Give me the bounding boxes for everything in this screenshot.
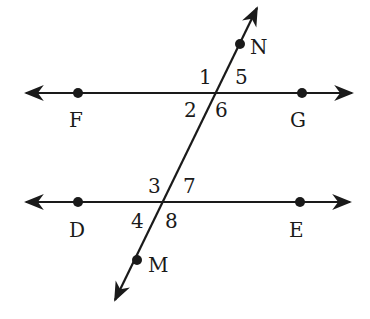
angle-label-7: 7 (183, 174, 196, 198)
point-d-dot (73, 197, 83, 207)
label-d: D (69, 218, 85, 242)
point-m-dot (132, 255, 142, 265)
diagram-canvas: F G D E N M 1 5 2 6 3 7 4 8 (0, 0, 370, 319)
angle-label-2: 2 (184, 98, 197, 122)
point-e-dot (295, 197, 305, 207)
label-m: M (148, 253, 168, 277)
label-n: N (250, 35, 268, 59)
geometry-figure: F G D E N M 1 5 2 6 3 7 4 8 (0, 0, 370, 319)
point-n-dot (235, 39, 245, 49)
angle-label-3: 3 (148, 174, 161, 198)
angle-label-1: 1 (199, 65, 212, 89)
point-g-dot (297, 88, 307, 98)
angle-label-5: 5 (235, 65, 248, 89)
angle-label-4: 4 (131, 209, 144, 233)
label-g: G (290, 108, 306, 132)
angle-label-6: 6 (215, 98, 228, 122)
label-f: F (69, 108, 83, 132)
label-e: E (289, 218, 304, 242)
point-f-dot (73, 88, 83, 98)
angle-label-8: 8 (165, 209, 178, 233)
